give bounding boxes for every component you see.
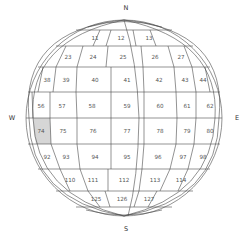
cell-label[interactable]: 60: [156, 103, 164, 109]
cell-label[interactable]: 95: [123, 154, 131, 160]
cell-divider: [76, 92, 77, 118]
cell-divider: [160, 169, 170, 191]
meridian-bottom-arc: [86, 210, 162, 215]
cell-label[interactable]: 78: [156, 128, 164, 134]
cell-label[interactable]: 25: [119, 54, 127, 60]
cell-label[interactable]: 41: [123, 77, 131, 83]
cell-divider: [194, 118, 196, 144]
cell-divider: [77, 46, 83, 67]
sphere-grid-diagram: N S W E 11 12 13 23 24 25 26 27 38 39 40…: [0, 0, 249, 237]
cell-label[interactable]: 75: [59, 128, 67, 134]
cell-divider: [170, 144, 176, 169]
cell-divider: [176, 92, 177, 118]
compass-south: S: [124, 225, 128, 233]
cell-label[interactable]: 92: [43, 154, 50, 160]
cell-label[interactable]: 43: [181, 77, 189, 83]
cell-label[interactable]: 59: [123, 103, 131, 109]
cell-label[interactable]: 26: [151, 54, 159, 60]
cell-divider: [192, 67, 196, 92]
cell-label[interactable]: 110: [65, 177, 76, 183]
cell-label[interactable]: 112: [119, 177, 130, 183]
cell-divider: [106, 30, 111, 46]
cell-label[interactable]: 125: [91, 196, 102, 202]
cell-label[interactable]: 23: [64, 54, 72, 60]
cell-divider: [174, 67, 176, 92]
cell-divider: [176, 118, 177, 144]
cell-label[interactable]: 62: [206, 103, 213, 109]
cell-label[interactable]: 11: [91, 35, 99, 41]
cell-divider: [105, 191, 110, 207]
cell-divider: [141, 46, 143, 67]
cell-divider: [139, 169, 142, 191]
cell-divider: [106, 46, 108, 67]
cell-label[interactable]: 61: [183, 103, 191, 109]
cell-divider: [142, 144, 144, 169]
cell-label[interactable]: 80: [206, 128, 214, 134]
cell-label[interactable]: 44: [199, 77, 207, 83]
cell-divider: [184, 46, 192, 67]
cell-divider: [143, 67, 144, 92]
cell-label[interactable]: 40: [91, 77, 99, 83]
cell-divider: [38, 67, 43, 92]
cell-label[interactable]: 98: [199, 154, 207, 160]
cell-divider: [168, 46, 174, 67]
cell-divider: [188, 144, 194, 169]
cell-divider: [133, 30, 136, 46]
cell-divider: [53, 67, 56, 92]
cell-label[interactable]: 79: [183, 128, 191, 134]
cell-divider: [134, 191, 139, 207]
cell-divider: [76, 67, 77, 92]
cell-label[interactable]: 12: [117, 35, 124, 41]
cell-label[interactable]: 77: [123, 128, 131, 134]
cell-label[interactable]: 13: [145, 35, 153, 41]
cell-label[interactable]: 42: [155, 77, 162, 83]
cell-label[interactable]: 57: [58, 103, 66, 109]
cell-label[interactable]: 126: [117, 196, 128, 202]
compass-east: E: [235, 114, 239, 122]
cell-label[interactable]: 38: [43, 77, 51, 83]
cell-label[interactable]: 27: [177, 54, 185, 60]
cell-label[interactable]: 114: [176, 177, 187, 183]
cell-label[interactable]: 24: [89, 54, 97, 60]
compass-west: W: [9, 114, 16, 122]
cell-label[interactable]: 74: [37, 128, 45, 134]
cell-label[interactable]: 97: [179, 154, 187, 160]
cell-label[interactable]: 94: [91, 154, 99, 160]
cell-label[interactable]: 96: [154, 154, 162, 160]
cell-divider: [77, 144, 80, 169]
cell-label[interactable]: 76: [89, 128, 97, 134]
cell-label[interactable]: 58: [88, 103, 96, 109]
cell-label[interactable]: 127: [144, 196, 155, 202]
cell-label[interactable]: 113: [150, 177, 161, 183]
cell-label[interactable]: 56: [37, 103, 45, 109]
cell-label[interactable]: 39: [62, 77, 70, 83]
cell-label[interactable]: 93: [62, 154, 70, 160]
cell-divider: [51, 144, 60, 169]
compass-north: N: [124, 4, 129, 12]
cell-label[interactable]: 111: [88, 177, 99, 183]
